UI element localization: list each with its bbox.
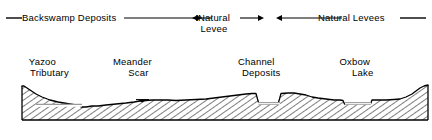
label-meander-line2: Scar — [113, 67, 152, 78]
label-channel-deposits: Channel Deposits — [232, 56, 281, 78]
floodplain-cross-section-figure: Backswamp Deposits Natural Levee Natural… — [0, 0, 432, 140]
label-channel-line2: Deposits — [232, 67, 281, 78]
label-natural-levees: Natural Levees — [318, 12, 385, 23]
label-natural-levee: Natural Levee — [198, 12, 230, 34]
label-oxbow-line2: Lake — [336, 67, 373, 78]
label-meander-scar: Meander Scar — [113, 56, 152, 78]
label-natural-levee-line1: Natural — [198, 12, 230, 23]
label-meander-line1: Meander — [113, 56, 152, 67]
label-natural-levee-line2: Levee — [198, 23, 230, 34]
label-backswamp-deposits: Backswamp Deposits — [22, 12, 116, 23]
label-yazoo-line2: Tributary — [16, 67, 69, 78]
label-oxbow-line1: Oxbow — [336, 56, 373, 67]
label-yazoo-tributary: Yazoo Tributary — [16, 56, 69, 78]
label-channel-line1: Channel — [232, 56, 281, 67]
label-oxbow-lake: Oxbow Lake — [336, 56, 373, 78]
label-yazoo-line1: Yazoo — [16, 56, 69, 67]
